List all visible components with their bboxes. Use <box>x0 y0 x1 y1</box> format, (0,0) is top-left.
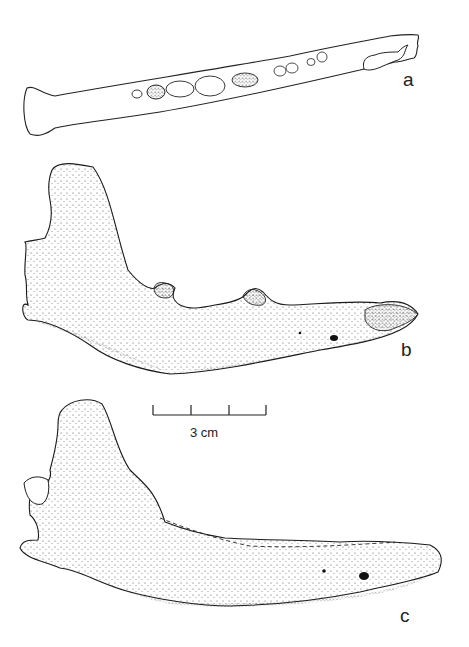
scale-bar <box>153 405 266 415</box>
scale-bar-label: 3 cm <box>190 426 218 439</box>
panel-label-a: a <box>403 70 414 89</box>
panel-label-c: c <box>400 606 410 625</box>
panel-c-mandible-lateral <box>20 400 441 607</box>
panel-a-mandible-occlusal <box>24 35 419 136</box>
mandible-figure <box>0 0 469 647</box>
panel-label-b: b <box>401 340 412 359</box>
panel-b-mandible-lateral <box>23 164 418 374</box>
